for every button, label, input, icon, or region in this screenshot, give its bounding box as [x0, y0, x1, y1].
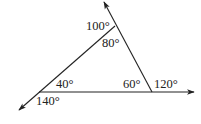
side-top-to-left-ray	[19, 26, 115, 110]
angle-label-left-interior: 40°	[56, 77, 74, 91]
angle-label-right-interior: 60°	[123, 77, 141, 91]
angle-label-top-interior: 80°	[102, 36, 120, 50]
angle-label-top-exterior: 100°	[86, 19, 110, 33]
angle-label-left-exterior: 140°	[36, 94, 60, 108]
angle-label-right-exterior: 120°	[154, 77, 178, 91]
triangle-diagram: 100° 80° 40° 140° 60° 120°	[0, 0, 201, 124]
